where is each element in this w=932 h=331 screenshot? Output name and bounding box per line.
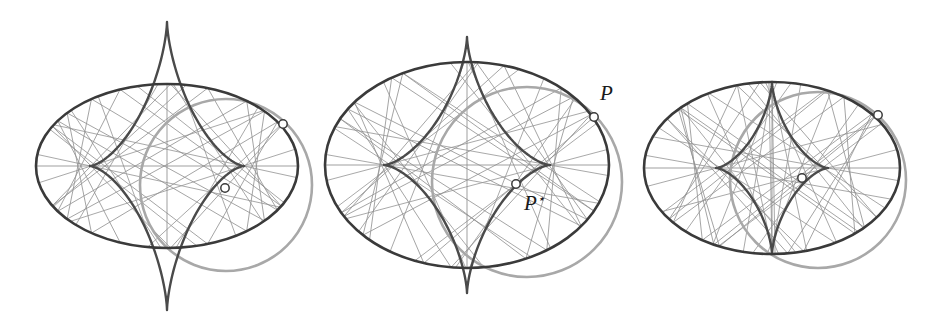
billiard-caustic-figure: PP⋆ — [0, 0, 932, 331]
point-p-star-marker[interactable] — [512, 180, 520, 188]
point-p-star-marker[interactable] — [798, 174, 806, 182]
point-p-label: P — [599, 81, 613, 105]
point-p-marker[interactable] — [874, 111, 882, 119]
point-p-marker[interactable] — [279, 120, 287, 128]
figure-canvas: PP⋆ — [0, 0, 932, 331]
point-p-star-marker[interactable] — [221, 184, 229, 192]
point-p-marker[interactable] — [590, 113, 598, 121]
point-p-star-superscript: ⋆ — [537, 191, 545, 206]
